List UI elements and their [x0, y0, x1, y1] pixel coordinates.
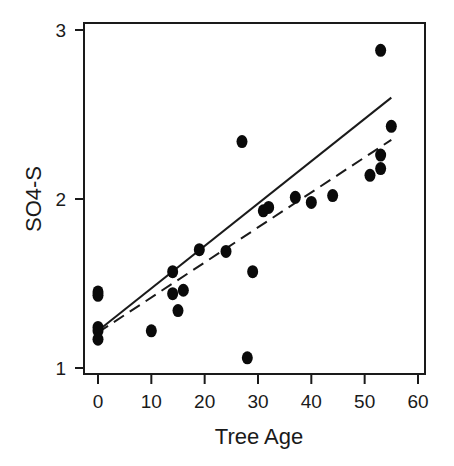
x-tick-label: 0 — [93, 391, 104, 412]
x-axis-title: Tree Age — [215, 424, 303, 449]
solid-fit-line — [98, 98, 391, 331]
x-tick-label: 10 — [141, 391, 162, 412]
data-point — [375, 44, 386, 57]
y-axis: 123 — [55, 20, 84, 379]
data-point — [167, 265, 178, 278]
data-point — [93, 333, 104, 346]
data-point — [146, 324, 157, 337]
data-point — [290, 191, 301, 204]
y-tick-label: 3 — [55, 20, 66, 41]
data-point — [375, 162, 386, 175]
data-point — [167, 287, 178, 300]
data-point — [386, 120, 397, 133]
dashed-fit-line — [98, 140, 391, 333]
data-point — [194, 243, 205, 256]
x-tick-label: 50 — [354, 391, 375, 412]
y-axis-title: SO4-S — [21, 166, 46, 232]
data-point — [327, 189, 338, 202]
data-point — [93, 289, 104, 302]
data-points — [93, 44, 397, 365]
fit-lines — [98, 98, 391, 333]
y-tick-label: 2 — [55, 189, 66, 210]
data-point — [220, 245, 231, 258]
data-point — [364, 169, 375, 182]
data-point — [236, 135, 247, 148]
plot-frame — [84, 23, 425, 374]
data-point — [242, 351, 253, 364]
data-point — [375, 149, 386, 162]
data-point — [247, 265, 258, 278]
data-point — [306, 196, 317, 209]
data-point — [178, 284, 189, 297]
x-tick-label: 20 — [194, 391, 215, 412]
scatter-chart: 123 0102030405060 Tree Age SO4-S — [0, 0, 454, 466]
data-point — [172, 304, 183, 317]
x-tick-label: 30 — [247, 391, 268, 412]
x-tick-label: 60 — [407, 391, 428, 412]
y-tick-label: 1 — [55, 358, 66, 379]
x-tick-label: 40 — [301, 391, 322, 412]
x-axis: 0102030405060 — [93, 374, 429, 412]
data-point — [263, 201, 274, 214]
